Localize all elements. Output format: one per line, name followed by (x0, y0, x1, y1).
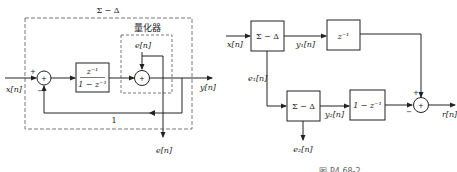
svg-text:z⁻¹: z⁻¹ (337, 32, 350, 41)
svg-text:+: + (418, 102, 424, 110)
e1-label: e₁[n] (248, 74, 268, 83)
r-output-label: r[n] (442, 110, 457, 119)
svg-text:+: + (139, 75, 145, 83)
svg-text:Σ − Δ: Σ − Δ (292, 102, 315, 111)
left-sigma-delta-diagram: Σ − Δ 量化器 x[n] + − + z⁻¹ 1 − z⁻¹ + e[n] … (5, 6, 217, 155)
svg-text:1 − z⁻¹: 1 − z⁻¹ (353, 101, 382, 110)
quantizer-label: 量化器 (134, 22, 161, 33)
sum-minus-sign: − (406, 108, 412, 116)
sum1-minus-sign: − (37, 87, 43, 95)
sum1-plus-sign: + (30, 68, 36, 76)
feedback-gain: 1 (111, 116, 116, 125)
right-input-label: x[n] (227, 40, 244, 49)
integrator-numerator: z⁻¹ (86, 67, 99, 76)
right-cascade-diagram: x[n] Σ − Δ y₁[n] z⁻¹ + e₁[n] Σ − Δ e₂[n]… (226, 20, 457, 172)
y1-label: y₁[n] (295, 40, 316, 49)
error-input-label: e[n] (135, 41, 152, 50)
svg-text:+: + (41, 75, 47, 83)
error-output-label: e[n] (156, 146, 173, 155)
sigma-delta-title: Σ − Δ (96, 6, 119, 15)
figure-caption: 图 P4.68-2 (319, 167, 360, 172)
e2-label: e₂[n] (293, 145, 313, 154)
diagram-canvas: Σ − Δ 量化器 x[n] + − + z⁻¹ 1 − z⁻¹ + e[n] … (0, 0, 457, 172)
svg-text:Σ − Δ: Σ − Δ (256, 32, 279, 41)
input-label: x[n] (6, 85, 23, 94)
sum-plus-sign: + (413, 89, 419, 97)
output-label: y[n] (199, 83, 217, 92)
y2-label: y₂[n] (324, 110, 345, 119)
integrator-denominator: 1 − z⁻¹ (78, 80, 107, 89)
